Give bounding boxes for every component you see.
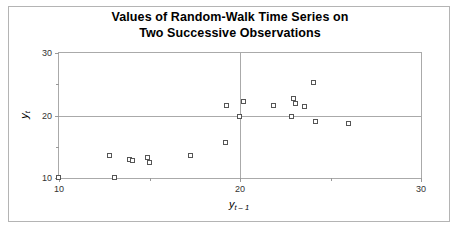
scatter-point: [241, 99, 246, 104]
x-axis-label-subscript: t – 1: [234, 203, 249, 212]
x-axis-tick-label: 20: [235, 184, 245, 194]
scatter-point: [302, 104, 307, 109]
scatter-point: [147, 160, 152, 165]
scatter-point: [311, 80, 316, 85]
scatter-point: [188, 153, 193, 158]
scatter-point: [130, 158, 135, 163]
x-axis-tick-label: 10: [54, 184, 64, 194]
y-axis-tick: [55, 53, 59, 54]
y-axis-label: yt: [18, 111, 32, 119]
scatter-point: [224, 103, 229, 108]
scatter-point: [271, 103, 276, 108]
scatter-point: [112, 175, 117, 180]
x-axis-tick-label: 30: [416, 184, 426, 194]
y-axis-tick-label: 20: [42, 111, 52, 121]
x-axis-minor-tick: [331, 178, 332, 181]
scatter-point: [237, 114, 242, 119]
scatter-point: [313, 119, 318, 124]
scatter-point: [107, 153, 112, 158]
y-axis-label-base: y: [18, 113, 30, 119]
scatter-point: [346, 121, 351, 126]
scatter-point: [289, 114, 294, 119]
scatter-point: [223, 140, 228, 145]
figure-container: Values of Random-Walk Time Series on Two…: [0, 0, 460, 230]
y-axis-minor-tick: [56, 147, 59, 148]
x-axis-tick: [421, 178, 422, 182]
x-axis-label: yt – 1: [229, 198, 249, 212]
x-axis-minor-tick: [150, 178, 151, 181]
chart-title: Values of Random-Walk Time Series on Two…: [0, 10, 460, 41]
y-axis-label-subscript: t: [23, 111, 32, 113]
y-axis-minor-tick: [56, 84, 59, 85]
scatter-point: [56, 175, 61, 180]
chart-title-line-2: Two Successive Observations: [0, 26, 460, 42]
plot-area: 102030102030: [58, 52, 422, 179]
x-axis-tick: [240, 178, 241, 182]
chart-title-line-1: Values of Random-Walk Time Series on: [0, 10, 460, 26]
scatter-point: [293, 101, 298, 106]
y-axis-tick-label: 30: [42, 48, 52, 58]
y-axis-tick: [55, 116, 59, 117]
y-axis-tick-label: 10: [42, 173, 52, 183]
